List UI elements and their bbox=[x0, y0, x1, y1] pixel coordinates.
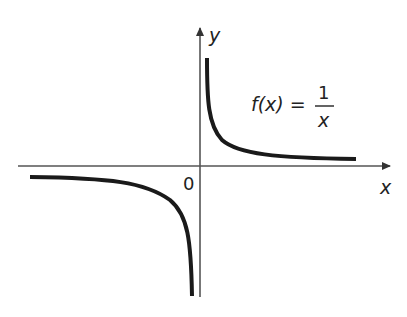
origin-label: 0 bbox=[183, 173, 194, 194]
function-label-denominator: x bbox=[317, 109, 330, 131]
y-axis-label: y bbox=[208, 24, 221, 46]
curve-negative-branch bbox=[30, 177, 192, 296]
function-label: f(x) = 1 x bbox=[251, 82, 334, 131]
x-axis-label: x bbox=[379, 176, 392, 198]
function-label-lhs: f(x) = bbox=[251, 93, 306, 115]
reciprocal-function-graph: y x 0 f(x) = 1 x bbox=[0, 0, 407, 317]
function-label-numerator: 1 bbox=[318, 82, 329, 103]
